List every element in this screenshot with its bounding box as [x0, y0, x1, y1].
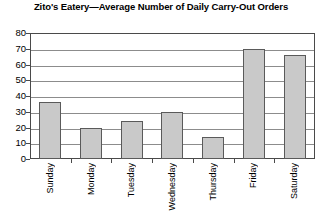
bar-slot	[193, 33, 234, 159]
x-axis-tick-label-monday: Monday	[87, 163, 96, 195]
y-axis-tick-label: 70	[0, 44, 26, 54]
x-axis-tick-label-thursday: Thursday	[209, 163, 218, 201]
x-axis-tick-label-friday: Friday	[249, 163, 258, 188]
x-axis-tick-label-wednesday: Wednesday	[168, 163, 177, 210]
bar-wednesday	[161, 112, 183, 159]
bar-slot	[234, 33, 275, 159]
x-axis-labels: SundayMondayTuesdayWednesdayThursdayFrid…	[30, 163, 315, 218]
y-axis-tick-label: 50	[0, 76, 26, 86]
bar-slot	[30, 33, 71, 159]
bar-slot	[274, 33, 315, 159]
bar-thursday	[202, 137, 224, 159]
y-axis-tick-label: 10	[0, 139, 26, 149]
y-axis-labels: 80706050403020100	[0, 33, 26, 159]
bar-slot	[152, 33, 193, 159]
x-axis-tick-label-saturday: Saturday	[290, 163, 299, 199]
chart-title: Zito's Eatery—Average Number of Daily Ca…	[30, 1, 292, 13]
y-axis-tick-label: 0	[0, 154, 26, 164]
bar-chart: Zito's Eatery—Average Number of Daily Ca…	[0, 0, 319, 218]
bar-slot	[71, 33, 112, 159]
y-axis-tick-label: 60	[0, 60, 26, 70]
y-axis-tick-label: 80	[0, 28, 26, 38]
y-axis-tick-label: 30	[0, 107, 26, 117]
bar-friday	[243, 49, 265, 159]
bar-monday	[80, 128, 102, 160]
bar-tuesday	[121, 121, 143, 159]
x-axis-tick-label-sunday: Sunday	[46, 163, 55, 194]
y-axis-tick-label: 40	[0, 91, 26, 101]
bar-saturday	[284, 55, 306, 159]
bar-sunday	[39, 102, 61, 159]
bar-slot	[111, 33, 152, 159]
bars-layer	[30, 33, 315, 159]
y-axis-tick-label: 20	[0, 123, 26, 132]
x-axis-tick-label-tuesday: Tuesday	[127, 163, 136, 197]
